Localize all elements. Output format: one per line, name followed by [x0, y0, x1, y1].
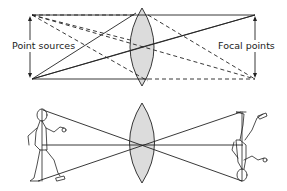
focal-points-label: Focal points: [218, 40, 275, 51]
bottom-diagram: [28, 103, 267, 183]
top-diagram: Point sources Focal points: [10, 8, 275, 86]
lens-optics-figure: Point sources Focal points: [0, 0, 287, 191]
inverted-figure-icon: [232, 112, 267, 181]
point-sources-label: Point sources: [12, 40, 75, 51]
